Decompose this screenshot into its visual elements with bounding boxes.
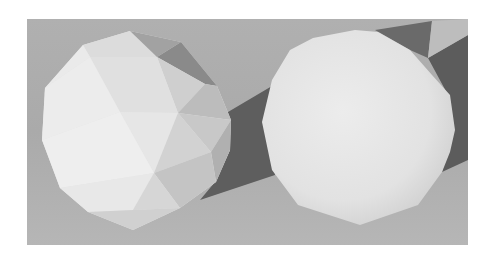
render-image (27, 19, 468, 245)
